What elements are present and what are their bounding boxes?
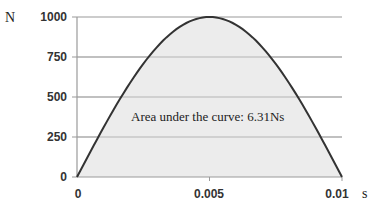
x-tick-0: 0 bbox=[75, 187, 82, 201]
x-tick-001: 0.01 bbox=[325, 187, 349, 201]
x-unit-label: s bbox=[362, 186, 367, 201]
y-tick-0: 0 bbox=[60, 170, 67, 184]
x-tick-0005: 0.005 bbox=[194, 187, 224, 201]
y-tick-750: 750 bbox=[47, 50, 67, 64]
chart: N 1000 750 500 250 0 0 0.005 0.01 s Area… bbox=[0, 0, 388, 211]
y-tick-250: 250 bbox=[47, 130, 67, 144]
y-tick-1000: 1000 bbox=[40, 10, 67, 24]
y-tick-500: 500 bbox=[47, 90, 67, 104]
area-annotation: Area under the curve: 6.31Ns bbox=[131, 109, 284, 124]
y-unit-label: N bbox=[5, 10, 15, 25]
